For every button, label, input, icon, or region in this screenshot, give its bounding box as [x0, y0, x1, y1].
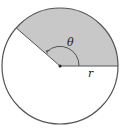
angle-label: θ [67, 36, 74, 49]
center-point [59, 65, 62, 68]
radius-label: r [88, 67, 94, 80]
circle-sector-diagram: θ r [0, 0, 128, 133]
